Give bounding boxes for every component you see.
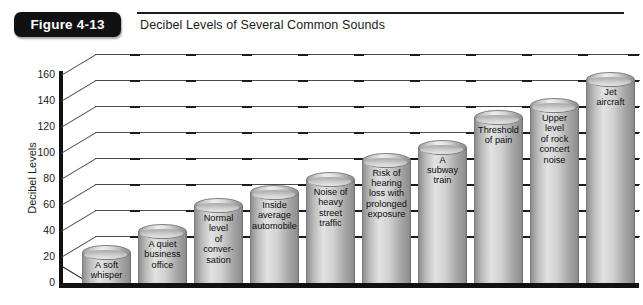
bar[interactable]: Inside average automobile [250, 192, 299, 283]
bar-top-ellipse [82, 245, 131, 260]
bar[interactable]: Risk of hearing loss with prolonged expo… [362, 160, 411, 284]
bar[interactable]: A subway train [418, 147, 467, 284]
bar-top-ellipse [586, 72, 635, 87]
bar-label: A soft whisper [84, 260, 129, 281]
bar-label: Inside average automobile [252, 200, 297, 231]
bar-top-ellipse [530, 98, 579, 113]
bar-top-ellipse [138, 224, 187, 239]
bar[interactable]: Normal level of conver- sation [194, 205, 243, 283]
bar-series: A soft whisperA quiet business officeNor… [0, 52, 643, 305]
bar[interactable]: A soft whisper [82, 252, 131, 283]
bar-label: Upper level of rock concert noise [532, 113, 577, 165]
bar-top-ellipse [474, 110, 523, 125]
bar-top-ellipse [250, 185, 299, 200]
bar-top-ellipse [194, 198, 243, 213]
decibel-bar-chart: Decibel Levels 020406080100120140160 A s… [0, 52, 643, 305]
bar[interactable]: A quiet business office [138, 231, 187, 283]
bar-label: A quiet business office [140, 239, 185, 270]
bar-label: Threshold of pain [476, 125, 521, 146]
figure-header: Figure 4-13 Decibel Levels of Several Co… [0, 0, 643, 52]
bar[interactable]: Threshold of pain [474, 117, 523, 283]
bar-top-ellipse [306, 172, 355, 187]
bar-label: Jet aircraft [588, 87, 633, 108]
bar-top-ellipse [362, 153, 411, 168]
bar-label: Noise of heavy street traffic [308, 187, 353, 229]
figure-number-badge: Figure 4-13 [14, 12, 121, 37]
bar-label: Normal level of conver- sation [196, 213, 241, 265]
bar[interactable]: Noise of heavy street traffic [306, 179, 355, 283]
bar[interactable]: Jet aircraft [586, 79, 635, 283]
bar-label: A subway train [420, 155, 465, 186]
bar-top-ellipse [418, 140, 467, 155]
title-divider [137, 12, 624, 14]
bar[interactable]: Upper level of rock concert noise [530, 105, 579, 283]
bar-label: Risk of hearing loss with prolonged expo… [364, 168, 409, 220]
figure-title: Decibel Levels of Several Common Sounds [140, 18, 385, 32]
